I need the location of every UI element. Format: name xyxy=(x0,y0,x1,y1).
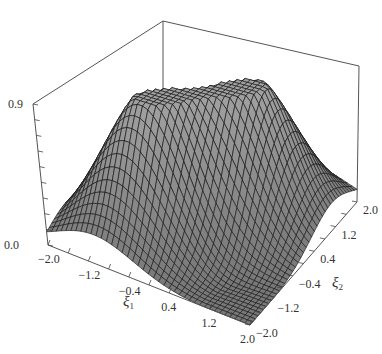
svg-text:1.2: 1.2 xyxy=(202,316,217,330)
svg-text:−2.0: −2.0 xyxy=(38,252,60,266)
svg-text:−2.0: −2.0 xyxy=(256,326,278,340)
svg-text:2.0: 2.0 xyxy=(363,203,378,217)
svg-text:0.4: 0.4 xyxy=(320,252,335,266)
svg-text:−0.4: −0.4 xyxy=(299,277,321,291)
svg-text:2.0: 2.0 xyxy=(240,332,255,346)
svg-text:1.2: 1.2 xyxy=(342,228,357,242)
svg-text:0.0: 0.0 xyxy=(4,238,19,252)
xi2-axis-label: ξ2 xyxy=(332,274,343,292)
svg-text:−1.2: −1.2 xyxy=(277,301,299,315)
svg-text:0.9: 0.9 xyxy=(8,97,23,111)
surface-plot: −2.0−1.2−0.40.41.22.0−2.0−1.2−0.40.41.22… xyxy=(0,0,382,354)
svg-text:0.4: 0.4 xyxy=(161,300,176,314)
svg-text:−1.2: −1.2 xyxy=(78,268,100,282)
